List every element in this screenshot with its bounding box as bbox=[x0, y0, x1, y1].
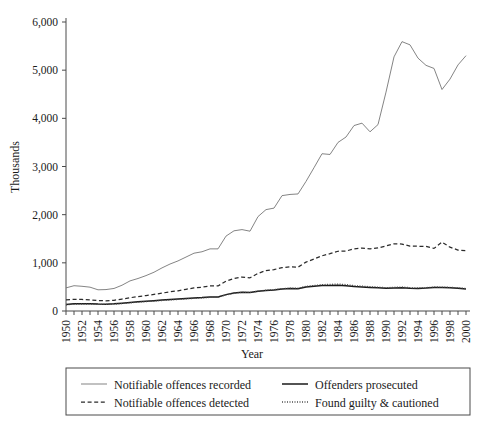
y-tick-label: 6,000 bbox=[32, 16, 58, 29]
legend-label: Offenders prosecuted bbox=[315, 378, 418, 392]
x-tick-label: 1966 bbox=[188, 320, 200, 343]
x-tick-label: 1970 bbox=[220, 320, 232, 343]
data-series-group bbox=[66, 42, 466, 305]
x-axis-title: Year bbox=[241, 347, 263, 361]
y-axis-title: Thousands bbox=[8, 141, 22, 193]
line-chart-svg: Thousands 01,0002,0003,0004,0005,0006,00… bbox=[0, 0, 482, 428]
series-line-3 bbox=[66, 284, 466, 305]
x-tick-label: 1956 bbox=[108, 320, 120, 343]
x-tick-label: 1950 bbox=[60, 320, 72, 343]
x-tick-label: 1990 bbox=[380, 320, 392, 343]
x-tick-label: 1952 bbox=[76, 320, 88, 343]
x-axis: 1950195219541956195819601962196419661968… bbox=[60, 311, 472, 343]
x-tick-label: 1968 bbox=[204, 320, 216, 343]
y-axis: 01,0002,0003,0004,0005,0006,000 bbox=[32, 16, 66, 317]
legend-label: Notifiable offences recorded bbox=[114, 378, 251, 392]
x-tick-label: 1988 bbox=[364, 320, 376, 343]
legend-label: Found guilty & cautioned bbox=[315, 396, 439, 410]
series-line-1 bbox=[66, 242, 466, 301]
x-tick-label: 1996 bbox=[428, 320, 440, 343]
x-tick-label: 1972 bbox=[236, 320, 248, 343]
series-line-2 bbox=[66, 285, 466, 304]
x-tick-label: 1954 bbox=[92, 320, 104, 343]
y-tick-label: 1,000 bbox=[32, 257, 58, 270]
x-tick-label: 1964 bbox=[172, 320, 184, 343]
x-tick-label: 2000 bbox=[460, 320, 472, 343]
y-tick-label: 0 bbox=[52, 305, 58, 317]
x-tick-label: 1986 bbox=[348, 320, 360, 343]
x-tick-label: 1980 bbox=[300, 320, 312, 343]
y-tick-label: 3,000 bbox=[32, 161, 58, 174]
x-tick-label: 1960 bbox=[140, 320, 152, 343]
y-tick-label: 5,000 bbox=[32, 64, 58, 77]
x-tick-label: 1976 bbox=[268, 320, 280, 343]
x-tick-label: 1958 bbox=[124, 320, 136, 343]
x-tick-label: 1974 bbox=[252, 320, 264, 343]
y-tick-label: 2,000 bbox=[32, 209, 58, 222]
y-tick-label: 4,000 bbox=[32, 112, 58, 125]
legend-label: Notifiable offences detected bbox=[114, 396, 249, 410]
x-tick-label: 1978 bbox=[284, 320, 296, 343]
x-tick-label: 1994 bbox=[412, 320, 424, 343]
y-axis-title-group: Thousands bbox=[8, 141, 22, 193]
chart-figure: Thousands 01,0002,0003,0004,0005,0006,00… bbox=[0, 0, 482, 428]
x-tick-label: 1984 bbox=[332, 320, 344, 343]
series-line-0 bbox=[66, 42, 466, 290]
x-tick-label: 1998 bbox=[444, 320, 456, 343]
x-tick-label: 1982 bbox=[316, 320, 328, 343]
x-tick-label: 1962 bbox=[156, 320, 168, 343]
x-tick-label: 1992 bbox=[396, 320, 408, 343]
legend: Notifiable offences recordedOffenders pr… bbox=[81, 378, 439, 410]
